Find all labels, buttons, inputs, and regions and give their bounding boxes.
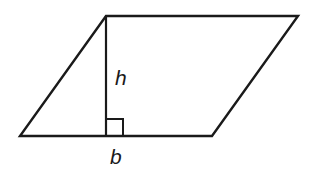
- height-label: h: [115, 66, 127, 89]
- base-label: b: [110, 145, 122, 168]
- parallelogram-outline: [20, 16, 298, 136]
- right-angle-marker: [106, 119, 123, 136]
- parallelogram-diagram: h b: [0, 0, 312, 170]
